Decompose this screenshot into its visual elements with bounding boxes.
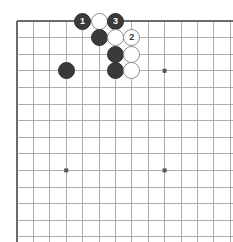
star-point xyxy=(163,69,167,73)
go-diagram: 132 xyxy=(0,0,233,242)
black-stone-corner[interactable] xyxy=(58,62,75,79)
white-stone-e[interactable] xyxy=(123,46,140,63)
white-stone-a[interactable] xyxy=(91,13,108,30)
move-number-label: 1 xyxy=(80,16,85,25)
move-number-label: 3 xyxy=(113,16,118,25)
black-stone-move-3[interactable]: 3 xyxy=(107,13,124,30)
move-number-label: 2 xyxy=(129,33,134,42)
star-point xyxy=(163,168,167,172)
black-stone-move-1[interactable]: 1 xyxy=(74,13,91,30)
star-point xyxy=(64,168,68,172)
white-stone-c[interactable] xyxy=(107,29,124,46)
black-stone-b[interactable] xyxy=(91,29,108,46)
black-stone-d[interactable] xyxy=(107,46,124,63)
